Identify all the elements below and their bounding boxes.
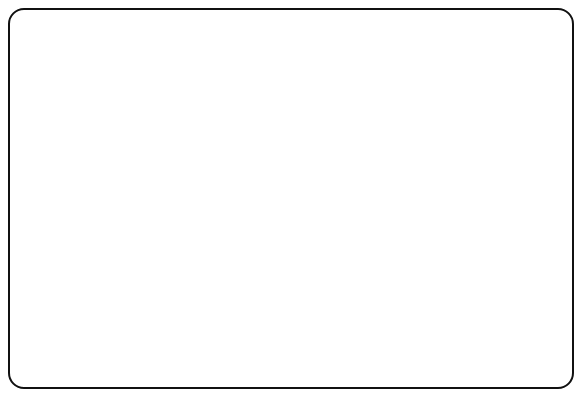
figure-frame [8, 8, 574, 389]
chart-figure: 050,000100,000150,000200,000250,000300,0… [0, 0, 584, 399]
